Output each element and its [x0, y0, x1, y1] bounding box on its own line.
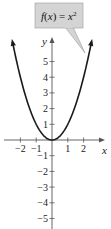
curve-right-arrow-icon [88, 39, 93, 46]
function-label: f(x) = x2 [41, 10, 77, 23]
y-tick-label: −5 [37, 213, 48, 224]
y-axis-arrow-icon [50, 37, 55, 43]
x-tick-label: 1 [65, 143, 70, 154]
y-axis [50, 37, 55, 229]
y-tick-label: 1 [43, 119, 48, 130]
y-tick-label: −4 [37, 197, 48, 208]
curve-left-arrow-icon [11, 39, 16, 46]
x-axis-arrow-icon [99, 138, 105, 143]
y-tick-label: −1 [37, 150, 48, 161]
y-axis-label: y [41, 35, 47, 47]
y-tick-label: 5 [43, 56, 48, 67]
x-tick-label: −2 [15, 143, 26, 154]
x-tick-label: 2 [81, 143, 86, 154]
y-tick-label: −2 [37, 166, 48, 177]
y-tick-label: −3 [37, 182, 48, 193]
y-tick-label: 2 [43, 103, 48, 114]
y-tick-label: 3 [43, 87, 48, 98]
y-tick-label: 4 [43, 72, 48, 83]
x-axis-label: x [101, 144, 107, 156]
parabola-graph: −2−112 54321−1−2−3−4−5 x y f(x) = x2 [0, 0, 111, 229]
